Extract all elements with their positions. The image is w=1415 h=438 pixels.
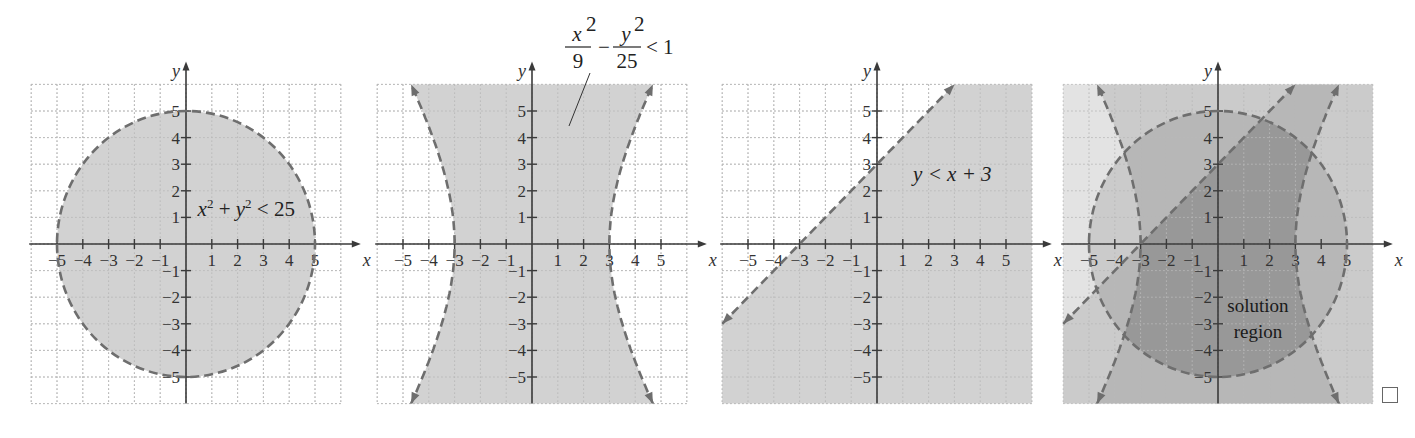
- y-tick-label: −2: [508, 288, 526, 307]
- solution-region-chart: −5−4−3−2−112345−5−4−3−2−112345xysolution…: [1032, 0, 1415, 438]
- x-tick-label: 2: [1265, 251, 1274, 270]
- numerator-x: x: [571, 22, 582, 46]
- y-axis-label: y: [861, 61, 871, 81]
- x-tick-label: −2: [471, 251, 489, 270]
- x-tick-label: −5: [739, 251, 757, 270]
- x-tick-label: 1: [554, 251, 563, 270]
- x-tick-label: 2: [233, 251, 242, 270]
- graph-circle-panel: −5−4−3−2−112345−5−4−3−2−112345xyx2 + y2 …: [0, 0, 370, 438]
- relation: < 1: [646, 35, 674, 59]
- x-tick-label: 5: [657, 251, 666, 270]
- y-tick-label: −4: [508, 341, 527, 360]
- plot-area: −5−4−3−2−112345−5−4−3−2−112345xyx2 + y2 …: [29, 61, 371, 403]
- x-tick-label: −3: [100, 251, 118, 270]
- x-tick-label: −2: [816, 251, 834, 270]
- y-axis-arrow-icon: [529, 61, 536, 70]
- var-y: y: [234, 197, 246, 221]
- x-tick-label: −5: [394, 251, 412, 270]
- minus: −: [598, 35, 610, 59]
- y-axis-arrow-icon: [183, 61, 190, 70]
- denominator: 9: [573, 49, 584, 73]
- y-tick-label: −2: [1194, 288, 1212, 307]
- empty-square-icon[interactable]: [1382, 387, 1398, 403]
- y-tick-label: −3: [508, 315, 526, 334]
- y-tick-label: −3: [162, 315, 180, 334]
- y-tick-label: −2: [853, 288, 871, 307]
- x-tick-label: 2: [579, 251, 588, 270]
- y-tick-label: −4: [162, 341, 181, 360]
- x-tick-label: 5: [1002, 251, 1011, 270]
- denominator: 25: [617, 49, 638, 73]
- y-tick-label: 4: [172, 129, 181, 148]
- graph-hyperbola-panel: −5−4−3−2−112345−5−4−3−2−112345xyx29−y225…: [346, 0, 716, 438]
- x-axis-label: x: [1394, 250, 1403, 270]
- y-tick-label: 5: [863, 102, 872, 121]
- y-axis-label: y: [516, 61, 526, 81]
- x-tick-label: −4: [765, 251, 784, 270]
- y-tick-label: 4: [518, 129, 527, 148]
- x-tick-label: −4: [420, 251, 439, 270]
- graph-line-panel: −5−4−3−2−112345−5−4−3−2−112345xyy < x + …: [691, 0, 1061, 438]
- plot-area: −5−4−3−2−112345−5−4−3−2−112345xyy < x + …: [720, 61, 1062, 403]
- x-tick-label: 4: [1317, 251, 1326, 270]
- y-axis-label: y: [170, 61, 180, 81]
- y-tick-label: 2: [518, 182, 527, 201]
- y-tick-label: −3: [1194, 315, 1212, 334]
- y-tick-label: −5: [853, 368, 871, 387]
- exp: 2: [586, 12, 597, 36]
- y-tick-label: −1: [853, 262, 871, 281]
- graph-solution-panel: −5−4−3−2−112345−5−4−3−2−112345xysolution…: [1032, 0, 1415, 438]
- rel: < 25: [252, 197, 295, 221]
- y-tick-label: 2: [863, 182, 872, 201]
- y-tick-label: 3: [172, 155, 181, 174]
- y-tick-label: −1: [508, 262, 526, 281]
- x-tick-label: 4: [631, 251, 640, 270]
- x-tick-label: 3: [950, 251, 959, 270]
- y-tick-label: −4: [853, 341, 872, 360]
- y-tick-label: 1: [1204, 208, 1213, 227]
- y-tick-label: −5: [508, 368, 526, 387]
- numerator-y: y: [619, 22, 631, 46]
- y-tick-label: 2: [1204, 182, 1213, 201]
- y-axis-label: y: [1202, 61, 1212, 81]
- x-tick-label: −2: [125, 251, 143, 270]
- y-axis-arrow-icon: [874, 61, 881, 70]
- x-tick-label: −2: [1157, 251, 1175, 270]
- y-tick-label: −3: [853, 315, 871, 334]
- circle-region-chart: −5−4−3−2−112345−5−4−3−2−112345xyx2 + y2 …: [0, 0, 370, 438]
- x-tick-label: −4: [1106, 251, 1125, 270]
- x-tick-label: −3: [791, 251, 809, 270]
- plot-area: −5−4−3−2−112345−5−4−3−2−112345xysolution…: [1061, 61, 1403, 405]
- solution-label-line1: solution: [1227, 295, 1289, 316]
- y-tick-label: −2: [162, 288, 180, 307]
- x-tick-label: 4: [976, 251, 985, 270]
- y-tick-label: 3: [518, 155, 527, 174]
- exp: 2: [634, 12, 645, 36]
- x-tick-label: 4: [285, 251, 294, 270]
- y-tick-label: 2: [172, 182, 181, 201]
- x-tick-label: 3: [259, 251, 268, 270]
- y-tick-label: −1: [162, 262, 180, 281]
- plot-area: −5−4−3−2−112345−5−4−3−2−112345xyx29−y225…: [375, 12, 717, 405]
- line-region-chart: −5−4−3−2−112345−5−4−3−2−112345xyy < x + …: [691, 0, 1061, 438]
- x-tick-label: −4: [74, 251, 93, 270]
- x-tick-label: 1: [208, 251, 217, 270]
- y-tick-label: 4: [1204, 129, 1213, 148]
- x-tick-label: 1: [899, 251, 908, 270]
- y-tick-label: 1: [863, 208, 872, 227]
- x-tick-label: 2: [924, 251, 933, 270]
- y-axis-arrow-icon: [1215, 61, 1222, 70]
- line-inequality-label: y < x + 3: [911, 162, 991, 186]
- solution-label-line2: region: [1234, 321, 1283, 342]
- y-tick-label: 1: [518, 208, 527, 227]
- y-tick-label: −4: [1194, 341, 1213, 360]
- x-tick-label: 1: [1240, 251, 1249, 270]
- hyperbola-region-chart: −5−4−3−2−112345−5−4−3−2−112345xyx29−y225…: [346, 0, 716, 438]
- x-axis-arrow-icon: [1384, 241, 1393, 248]
- y-tick-label: 1: [172, 208, 181, 227]
- y-tick-label: 5: [518, 102, 527, 121]
- y-tick-label: 4: [863, 129, 872, 148]
- plus: +: [213, 197, 235, 221]
- y-tick-label: −1: [1194, 262, 1212, 281]
